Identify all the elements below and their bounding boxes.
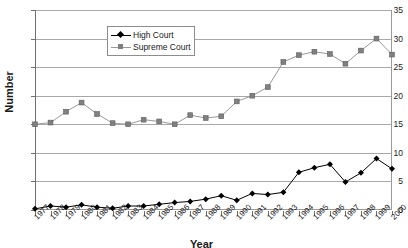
data-point [203,116,208,121]
data-point [172,200,178,206]
data-point [296,53,301,58]
data-point [265,85,270,90]
data-point [172,122,177,127]
data-point [126,122,131,127]
data-point [125,203,131,209]
data-point [203,196,209,202]
data-point [250,93,255,98]
data-point [79,202,85,208]
data-point [311,165,317,171]
supreme-court-marker-icon [111,42,131,52]
chart-legend: High Court Supreme Court [107,26,195,56]
y-axis-title: Number [3,62,15,122]
data-point [390,52,395,57]
data-point [156,201,162,207]
data-point [328,52,333,57]
data-point [157,119,162,124]
legend-item-high-court: High Court [111,29,194,41]
data-point [141,203,147,209]
data-point [48,203,54,209]
series-line [35,39,392,125]
x-axis-title: Year [0,239,403,248]
high-court-marker-icon [111,30,131,40]
data-point [389,166,395,172]
data-point [234,99,239,104]
legend-label-supreme-court: Supreme Court [131,42,191,52]
data-point [79,100,84,105]
data-point [374,36,379,41]
data-point [218,193,224,199]
data-point [359,48,364,53]
data-point [219,114,224,119]
data-point [188,113,193,118]
data-point [63,204,69,210]
data-point [141,117,146,122]
data-point [48,120,53,125]
data-point [64,109,69,114]
data-point [95,112,100,117]
data-point [281,60,286,65]
legend-item-supreme-court: Supreme Court [111,41,194,53]
data-point [343,61,348,66]
data-point [312,49,317,54]
series-supreme-court [33,36,395,127]
data-point [249,190,255,196]
data-point [187,198,193,204]
data-point [234,197,240,203]
chart-title-cropped [0,0,403,6]
legend-label-high-court: High Court [131,30,174,40]
series-high-court [32,156,395,212]
data-point [110,121,115,126]
data-point [265,192,271,198]
data-point [94,204,100,210]
data-point [33,122,38,127]
series-layer [35,10,392,210]
series-line [35,159,392,209]
